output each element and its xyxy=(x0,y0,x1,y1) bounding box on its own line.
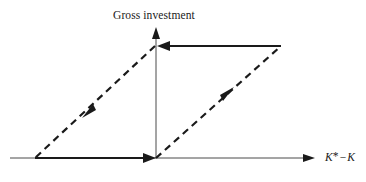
right-dashed-diagonal xyxy=(156,46,281,158)
top-horizontal-segment-group xyxy=(157,41,281,51)
figure-container: Gross investment K*−K xyxy=(0,0,366,182)
left-dashed-diagonal xyxy=(35,46,155,158)
right-dashed-diagonal-arrowhead xyxy=(220,87,234,101)
bold-x-axis-segment-arrowhead xyxy=(143,153,156,163)
x-axis-title-k-star-letter: K xyxy=(325,151,333,163)
x-axis-title-star-glyph: * xyxy=(333,150,339,162)
bold-x-axis-segment-group xyxy=(35,153,156,163)
x-axis-title-k-letter: K xyxy=(347,151,355,163)
x-axis-title-minus-glyph: − xyxy=(339,151,348,163)
diagram-canvas xyxy=(0,0,366,182)
y-axis-arrowhead xyxy=(152,27,160,39)
right-dashed-diagonal-group xyxy=(156,46,281,158)
x-axis-arrowhead xyxy=(303,154,315,162)
x-axis-title: K*−K xyxy=(325,150,355,163)
top-horizontal-segment-arrowhead xyxy=(157,41,170,51)
y-axis-title: Gross investment xyxy=(113,9,195,21)
left-dashed-diagonal-group xyxy=(35,46,155,158)
